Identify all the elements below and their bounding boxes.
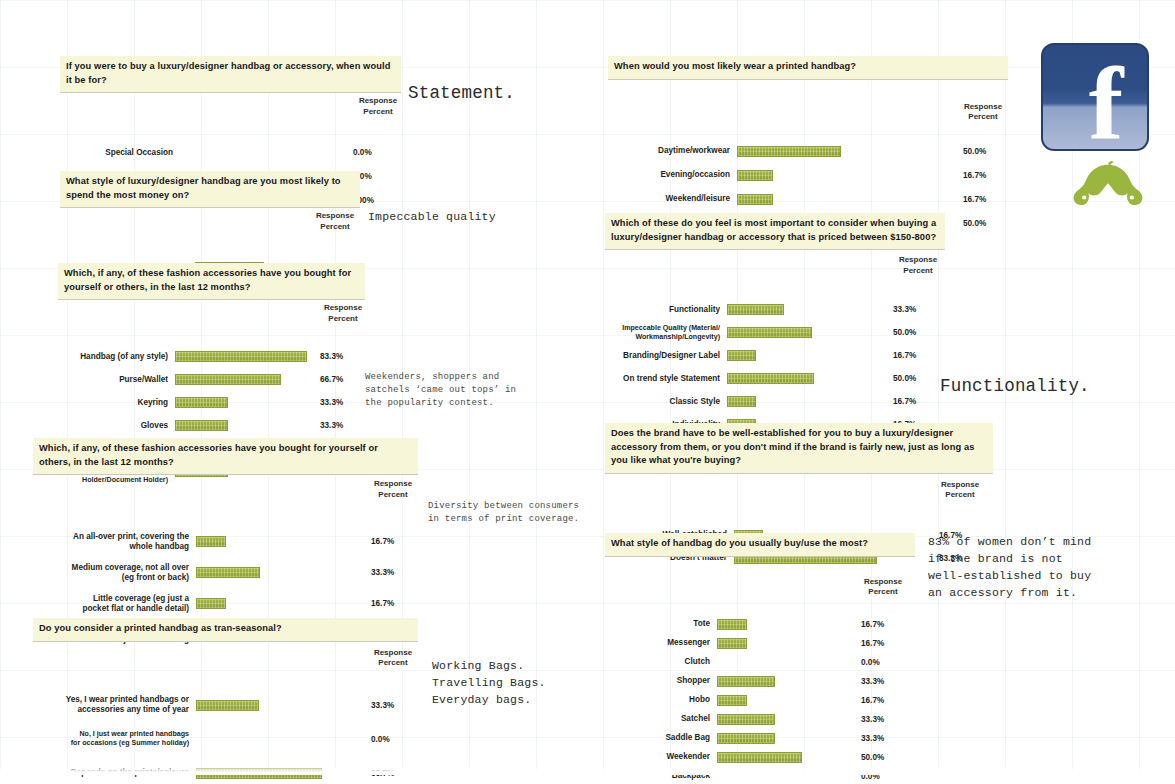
facebook-f-glyph: f — [1089, 51, 1124, 151]
chart-block-q3: Which, if any, of these fashion accessor… — [58, 263, 365, 460]
annotation-popularity-contest: Weekenders, shoppers and satchels ‘came … — [365, 371, 516, 410]
bar-track — [737, 170, 947, 181]
bar-label: Evening/occasion — [608, 170, 737, 180]
bar-label: Little coverage (eg just a pocket flat o… — [33, 594, 196, 614]
bar-label: Messenger — [605, 638, 717, 648]
bar-row: Functionality 33.3% — [565, 298, 995, 321]
bar-value: 33.3% — [320, 421, 343, 430]
bar-label: Clutch — [605, 657, 717, 667]
chart-block-q4: Which, if any, of these fashion accessor… — [33, 438, 418, 630]
chart-rows-q4: Response Percent An all-over print, cove… — [33, 475, 418, 630]
annotation-statement: Statement. — [408, 82, 515, 104]
bar-value: 16.7% — [893, 351, 916, 360]
bar-row: Branding/Designer Label 16.7% — [565, 344, 995, 367]
chart-block-q5: Do you consider a printed handbag as tra… — [33, 618, 418, 777]
response-percent-header-q2: Response Percent — [305, 211, 365, 232]
bar-value: 33.3% — [861, 734, 884, 743]
bar-track — [196, 598, 346, 609]
bar-track — [175, 374, 315, 385]
chart-title-q5: Do you consider a printed handbag as tra… — [33, 618, 418, 642]
bar-value: 50.0% — [963, 219, 986, 228]
bar-track — [717, 657, 857, 668]
bar-fill — [196, 536, 226, 547]
bar-fill — [727, 327, 812, 338]
chart-block-q1: If you were to buy a luxury/designer han… — [60, 56, 401, 177]
bar-row: Purse/Wallet 66.7% — [58, 368, 399, 391]
bar-track — [175, 397, 315, 408]
bar-value: 0.0% — [861, 658, 880, 667]
bar-value: 33.3% — [861, 677, 884, 686]
bar-fill — [717, 714, 775, 725]
chart-block-q6: When would you most likely wear a printe… — [608, 56, 1008, 210]
bar-track — [737, 194, 947, 205]
bar-track — [717, 695, 857, 706]
bar-value: 16.7% — [963, 195, 986, 204]
bar-value: 50.0% — [893, 328, 916, 337]
bar-fill — [196, 598, 226, 609]
bar-label: Medium coverage, not all over (eg front … — [33, 563, 196, 583]
bar-value: 16.7% — [861, 696, 884, 705]
response-percent-header-q5: Response Percent — [363, 648, 423, 669]
bar-row: Yes, I wear printed handbags or accessor… — [33, 694, 453, 717]
bar-row: Daytime/workwear 50.0% — [608, 140, 1038, 163]
bar-value: 83.3% — [320, 352, 343, 361]
bar-value: 16.7% — [371, 537, 394, 546]
bar-label: Tote — [605, 619, 717, 629]
bar-value: 16.7% — [861, 620, 884, 629]
bar-value: 50.0% — [893, 374, 916, 383]
bar-track — [175, 351, 315, 362]
bar-value: 33.3% — [893, 305, 916, 314]
chart-rows-q6: Response Percent Daytime/workwear 50.0% … — [608, 80, 1008, 210]
bar-value: 33.3% — [371, 568, 394, 577]
annotation-functionality: Functionality. — [940, 375, 1090, 397]
annotation-print-coverage: Diversity between consumers in terms of … — [428, 500, 579, 526]
bar-row: An all-over print, covering the whole ha… — [33, 530, 453, 553]
annotation-impeccable-quality: Impeccable quality — [368, 208, 496, 225]
bar-track — [717, 733, 857, 744]
bar-label: Purse/Wallet — [58, 375, 175, 385]
bar-label: Impeccable Quality (Material/ Workmanshi… — [565, 324, 727, 342]
bar-fill — [737, 146, 841, 157]
bar-value: 16.7% — [963, 171, 986, 180]
chart-rows-q3: Response Percent Handbag (of any style) … — [58, 300, 365, 460]
bar-value: 33.3% — [320, 398, 343, 407]
bar-value: 50.0% — [861, 753, 884, 762]
chart-block-q2: What style of luxury/designer handbag ar… — [60, 171, 360, 270]
facebook-logo[interactable]: f — [1041, 43, 1149, 151]
bar-fill — [175, 351, 307, 362]
bar-row: Classic Style 16.7% — [565, 390, 995, 413]
bar-track — [727, 373, 837, 384]
bar-fill — [727, 304, 784, 315]
chart-title-q7: Which of these do you feel is most impor… — [605, 213, 945, 250]
bar-track — [175, 420, 315, 431]
bar-label: Daytime/workwear — [608, 146, 737, 156]
response-percent-header-q7: Response Percent — [888, 255, 948, 276]
bar-track — [727, 350, 837, 361]
bar-label: Weekend/leisure — [608, 194, 737, 204]
annotation-brand-not-established: 83% of women don’t mind if the brand is … — [928, 533, 1091, 601]
bar-fill — [175, 420, 228, 431]
chart-rows-q1: Response Percent Special Occasion 0.0% E… — [60, 93, 401, 177]
chart-title-q4: Which, if any, of these fashion accessor… — [33, 438, 418, 475]
chart-rows-q2: Response Percent On-trend Style 50.0% Cl… — [60, 208, 360, 270]
chart-rows-q9: Response Percent Tote 16.7% Messenger 16… — [605, 557, 915, 767]
bar-fill — [737, 194, 773, 205]
bar-track — [717, 752, 857, 763]
bar-label: Classic Style — [565, 397, 727, 407]
bar-track — [717, 619, 857, 630]
bar-label: Yes, I wear printed handbags or accessor… — [33, 695, 196, 715]
bar-label: Gloves — [58, 421, 175, 431]
bar-fill — [717, 619, 747, 630]
bar-label: Hobo — [605, 695, 717, 705]
bar-row: Handbag (of any style) 83.3% — [58, 345, 399, 368]
bar-fill — [727, 373, 814, 384]
bar-value: 33.3% — [371, 701, 394, 710]
bar-row: Gloves 33.3% — [58, 414, 399, 437]
chart-block-q9: What style of handbag do you usually buy… — [605, 533, 915, 767]
bar-label: An all-over print, covering the whole ha… — [33, 532, 196, 552]
bar-value: 16.7% — [861, 639, 884, 648]
bar-label: Saddle Bag — [605, 733, 717, 743]
response-percent-header-q1: Response Percent — [348, 96, 408, 117]
chart-title-q2: What style of luxury/designer handbag ar… — [60, 171, 360, 208]
bar-fill — [196, 700, 259, 711]
